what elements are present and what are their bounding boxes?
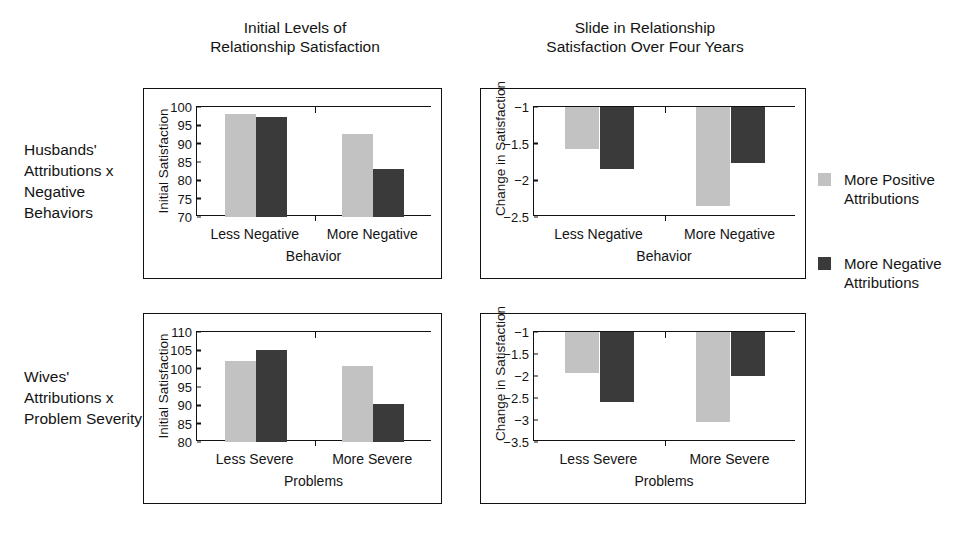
y-axis-tick-label: 95 (178, 118, 197, 133)
legend-item-more-negative: More Negative Attributions (818, 254, 950, 292)
y-axis-tick-label: −2 (514, 173, 534, 188)
panel-husbands-initial: 707580859095100Initial SatisfactionLess … (143, 88, 442, 279)
x-axis-tick (665, 107, 666, 113)
x-axis-tick (665, 440, 666, 446)
y-axis-tick-label: 90 (178, 398, 197, 413)
bar (696, 107, 731, 206)
chart-husbands-change: −1−1.5−2−2.5Change in SatisfactionLess N… (481, 89, 805, 278)
column-title-initial-levels: Initial Levels ofRelationship Satisfacti… (150, 18, 440, 56)
bar (256, 117, 287, 217)
y-axis-tick-label: 80 (178, 173, 197, 188)
bar (565, 332, 600, 373)
y-axis-tick-label: 100 (170, 100, 197, 115)
x-axis-title: Problems (533, 473, 795, 489)
y-axis-tick-label: −1 (514, 100, 534, 115)
y-axis-tick-label: 105 (170, 343, 197, 358)
bar (565, 107, 600, 149)
legend-item-more-positive: More Positive Attributions (818, 170, 950, 208)
chart-wives-initial: 80859095100105110Initial SatisfactionLes… (144, 314, 441, 503)
bar (600, 332, 635, 402)
y-axis-title: Change in Satisfaction (493, 331, 508, 441)
bar (225, 361, 256, 442)
row-label-wives: Wives' Attributions x Problem Severity (24, 366, 144, 429)
y-axis-tick-label: 110 (171, 325, 197, 340)
bar (731, 332, 766, 376)
y-axis-tick-label: 90 (178, 136, 197, 151)
x-axis-category-label: More Severe (314, 451, 432, 467)
y-axis-tick-label: 95 (178, 380, 197, 395)
y-axis-title: Initial Satisfaction (156, 106, 171, 216)
figure-canvas: Initial Levels ofRelationship Satisfacti… (0, 0, 958, 533)
bar (373, 404, 404, 443)
y-axis-tick-label: −1 (514, 325, 534, 340)
row-label-husbands: Husbands' Attributions x Negative Behavi… (24, 139, 144, 223)
x-axis-category-label: More Severe (664, 451, 795, 467)
x-axis-category-label: Less Severe (533, 451, 664, 467)
y-axis-tick-label: −2 (514, 369, 534, 384)
plot-area: −1−1.5−2−2.5−3−3.5 (533, 331, 795, 441)
bar (696, 332, 731, 422)
x-axis-title: Problems (196, 473, 431, 489)
legend-swatch-more-positive-icon (818, 173, 831, 186)
legend-label-more-negative: More Negative Attributions (844, 254, 950, 292)
panel-wives-change: −1−1.5−2−2.5−3−3.5Change in Satisfaction… (480, 313, 806, 504)
y-axis-tick-label: 85 (178, 416, 197, 431)
y-axis-tick-label: 80 (178, 435, 197, 450)
bar (731, 107, 766, 163)
y-axis-tick-label: −3 (514, 413, 534, 428)
y-axis-tick-label: 70 (178, 210, 197, 225)
x-axis-category-label: Less Negative (196, 226, 314, 242)
column-title-slide-in-satisfaction: Slide in RelationshipSatisfaction Over F… (480, 18, 810, 56)
chart-husbands-initial: 707580859095100Initial SatisfactionLess … (144, 89, 441, 278)
y-axis-title: Initial Satisfaction (156, 331, 171, 441)
legend-swatch-more-negative-icon (818, 257, 831, 270)
y-axis-tick-label: 75 (178, 191, 197, 206)
bar (373, 169, 404, 217)
x-axis-tick (315, 215, 316, 221)
x-axis-category-label: More Negative (664, 226, 795, 242)
x-axis-category-label: More Negative (314, 226, 432, 242)
legend-label-more-positive: More Positive Attributions (844, 170, 950, 208)
panel-husbands-change: −1−1.5−2−2.5Change in SatisfactionLess N… (480, 88, 806, 279)
bar (600, 107, 635, 169)
bar (342, 366, 373, 442)
plot-area: 80859095100105110 (196, 331, 431, 441)
bar (225, 114, 256, 217)
bar (256, 350, 287, 442)
x-axis-tick (665, 215, 666, 221)
legend: More Positive Attributions More Negative… (818, 170, 950, 338)
x-axis-tick (665, 332, 666, 338)
chart-wives-change: −1−1.5−2−2.5−3−3.5Change in Satisfaction… (481, 314, 805, 503)
panel-wives-initial: 80859095100105110Initial SatisfactionLes… (143, 313, 442, 504)
x-axis-tick (315, 332, 316, 338)
plot-area: −1−1.5−2−2.5 (533, 106, 795, 216)
x-axis-title: Behavior (533, 248, 795, 264)
y-axis-title: Change in Satisfaction (493, 106, 508, 216)
x-axis-category-label: Less Negative (533, 226, 664, 242)
x-axis-tick (315, 440, 316, 446)
x-axis-category-label: Less Severe (196, 451, 314, 467)
plot-area: 707580859095100 (196, 106, 431, 216)
y-axis-tick-label: 100 (170, 361, 197, 376)
x-axis-tick (315, 107, 316, 113)
y-axis-tick-label: 85 (178, 155, 197, 170)
bar (342, 134, 373, 217)
x-axis-title: Behavior (196, 248, 431, 264)
